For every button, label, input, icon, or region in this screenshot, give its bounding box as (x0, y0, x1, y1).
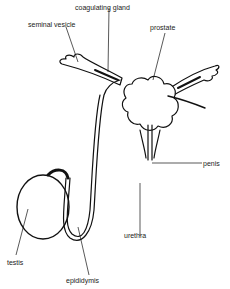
label-epididymis: epididymis (66, 277, 99, 285)
left-seminal-vesicle (60, 54, 122, 85)
label-testis: testis (7, 259, 23, 267)
vas-deferens (64, 80, 121, 240)
label-seminal-vesicle: seminal vesicle (28, 21, 75, 29)
label-penis: penis (203, 160, 220, 168)
reproductive-diagram: coagulating gland seminal vesicle prosta… (0, 0, 230, 289)
testis-body (17, 175, 69, 239)
label-coagulating-gland: coagulating gland (75, 4, 130, 12)
diagram-drawing (0, 0, 230, 289)
label-prostate: prostate (150, 24, 175, 32)
penis (140, 130, 160, 158)
prostate-gland (122, 77, 178, 131)
label-urethra: urethra (124, 232, 146, 240)
